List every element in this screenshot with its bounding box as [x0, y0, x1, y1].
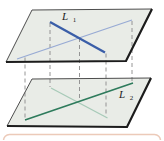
skew-lines-canvas: L 1 L 2 [0, 0, 164, 140]
label-l2-subscript: 2 [130, 94, 134, 102]
skew-lines-figure: L 1 L 2 [0, 0, 164, 140]
label-l1-base: L [61, 10, 68, 22]
label-l2-base: L [118, 88, 125, 100]
cropped-frame-below [4, 135, 161, 141]
label-l1-subscript: 1 [73, 16, 77, 24]
